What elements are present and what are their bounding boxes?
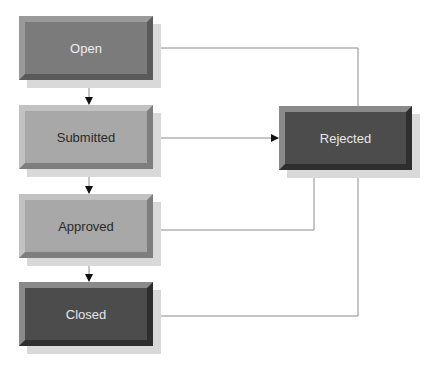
- node-label: Closed: [25, 288, 147, 340]
- node-label: Open: [25, 22, 147, 74]
- node-submitted[interactable]: Submitted: [19, 105, 153, 169]
- node-closed[interactable]: Closed: [19, 282, 153, 346]
- node-approved[interactable]: Approved: [19, 194, 153, 258]
- node-label: Rejected: [285, 112, 406, 164]
- edge-rejected-open: [154, 48, 358, 106]
- edge-approved-rejected: [161, 171, 314, 230]
- edge-rejected-closed: [154, 178, 358, 316]
- node-label: Submitted: [25, 111, 147, 163]
- node-label: Approved: [25, 200, 147, 252]
- node-open[interactable]: Open: [19, 16, 153, 80]
- node-rejected[interactable]: Rejected: [279, 106, 412, 170]
